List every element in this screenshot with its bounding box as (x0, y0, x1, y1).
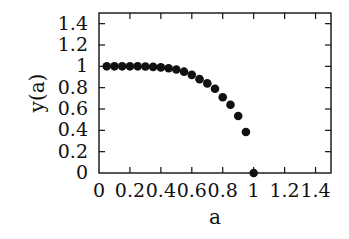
x-tick-label: 1 (248, 179, 260, 201)
y-tick-labels: 00.20.40.60.811.21.4 (58, 12, 88, 183)
x-tick-label: 0.2 (115, 179, 145, 201)
x-tick-label: 1.4 (300, 179, 330, 201)
data-points (102, 62, 258, 177)
data-point (118, 62, 127, 71)
data-point (157, 63, 166, 72)
data-point (211, 84, 220, 93)
data-point (180, 67, 189, 76)
data-point (110, 62, 119, 71)
x-tick-label: 0.4 (146, 179, 176, 201)
data-point (149, 63, 158, 72)
y-tick-label: 1.4 (58, 12, 88, 34)
y-axis-label: y(a) (25, 74, 49, 114)
y-tick-label: 0 (76, 161, 88, 183)
data-point (164, 64, 173, 73)
y-tick-label: 0.6 (58, 97, 88, 119)
data-point (249, 169, 258, 178)
data-point (188, 71, 197, 80)
scatter-chart: 00.20.40.60.811.21.4 00.20.40.60.811.21.… (0, 0, 349, 239)
x-tick-label: 0.8 (208, 179, 238, 201)
data-point (218, 93, 227, 102)
data-point (242, 128, 251, 137)
x-tick-label: 0 (93, 179, 105, 201)
data-point (126, 62, 135, 71)
data-point (102, 62, 111, 71)
data-point (203, 79, 212, 88)
y-tick-label: 0.8 (58, 76, 88, 98)
data-point (141, 62, 150, 71)
x-axis-label: a (209, 205, 221, 229)
y-tick-label: 1.2 (58, 33, 88, 55)
data-point (195, 75, 204, 84)
data-point (226, 100, 235, 109)
data-point (234, 112, 243, 121)
y-tick-label: 0.2 (58, 140, 88, 162)
data-point (172, 65, 181, 74)
x-tick-label: 0.6 (177, 179, 207, 201)
y-tick-label: 1 (76, 54, 88, 76)
data-point (133, 62, 142, 71)
x-tick-labels: 00.20.40.60.811.21.4 (93, 179, 331, 201)
x-tick-label: 1.2 (269, 179, 299, 201)
y-tick-label: 0.4 (58, 118, 88, 140)
